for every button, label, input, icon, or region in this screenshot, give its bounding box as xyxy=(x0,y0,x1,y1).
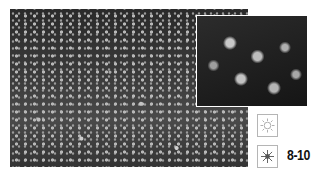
full-sun-badge xyxy=(257,114,278,137)
hardiness-zones: 8-10 xyxy=(287,146,310,163)
inset-photo xyxy=(196,15,308,107)
sun-outline-icon xyxy=(259,117,276,134)
partial-sun-badge xyxy=(257,145,278,168)
sun-filled-icon xyxy=(259,148,276,165)
